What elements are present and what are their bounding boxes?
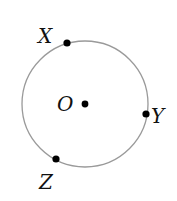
point-x	[63, 39, 70, 46]
label-y: Y	[151, 104, 166, 128]
circle-diagram: X Y Z O	[0, 0, 177, 201]
label-o: O	[57, 92, 73, 116]
label-x: X	[36, 24, 53, 48]
point-y	[142, 110, 149, 117]
point-o-center	[82, 101, 89, 108]
label-z: Z	[38, 170, 54, 194]
point-z	[52, 155, 59, 162]
